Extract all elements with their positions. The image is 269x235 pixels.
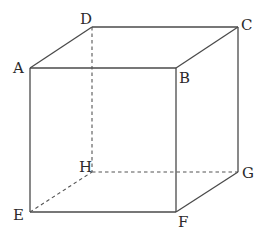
vertex-labels: A D C B H G E F	[12, 10, 254, 231]
label-C: C	[241, 16, 252, 34]
edge-BC	[176, 27, 238, 68]
label-E: E	[13, 206, 24, 224]
cube-diagram: A D C B H G E F	[0, 0, 269, 235]
label-H: H	[79, 158, 92, 176]
hidden-edges	[30, 27, 238, 212]
edge-EH	[30, 172, 92, 212]
label-F: F	[178, 213, 188, 231]
label-G: G	[242, 164, 254, 182]
label-B: B	[179, 69, 190, 87]
visible-edges	[30, 27, 238, 212]
edge-AD	[30, 27, 92, 68]
label-D: D	[80, 10, 92, 28]
label-A: A	[12, 59, 24, 77]
edge-FG	[176, 172, 238, 212]
